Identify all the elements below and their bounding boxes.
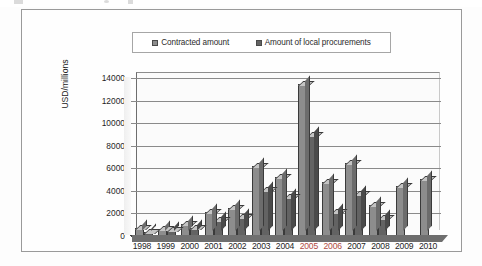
bar-group xyxy=(413,77,436,235)
chart-screenshot: Contracted amount Amount of local procur… xyxy=(0,0,482,266)
y-tick-label: 12000 xyxy=(102,96,125,106)
y-tick-label: 8000 xyxy=(106,141,125,151)
bar-groups xyxy=(132,77,436,235)
bar-group xyxy=(296,77,319,235)
scan-artifact xyxy=(0,0,482,7)
x-tick-label-2004: 2004 xyxy=(273,241,297,251)
bar-1998-series2 xyxy=(144,232,153,235)
bar-2000-series2 xyxy=(190,228,199,235)
y-tick-label: 6000 xyxy=(106,163,125,173)
bar-group xyxy=(389,77,412,235)
bar-2001-series1 xyxy=(205,212,214,235)
x-tick-label-1998: 1998 xyxy=(130,241,154,251)
bar-group xyxy=(155,77,178,235)
bar-group xyxy=(343,77,366,235)
x-tick-label-2003: 2003 xyxy=(249,241,273,251)
x-axis-tick-labels: 1998199920002001200220032004200520062007… xyxy=(130,241,440,251)
plot-wrapper: USD/millions 020004000600080001000012000… xyxy=(66,68,456,258)
chart-legend: Contracted amount Amount of local procur… xyxy=(132,32,391,53)
y-tick-label: 2000 xyxy=(106,208,125,218)
x-tick-label-2001: 2001 xyxy=(202,241,226,251)
x-tick-label-1999: 1999 xyxy=(154,241,178,251)
legend-item-label: Amount of local procurements xyxy=(265,38,371,47)
bar-group xyxy=(179,77,202,235)
legend-item-local-procurements: Amount of local procurements xyxy=(256,38,371,47)
bar-2003-series1 xyxy=(252,166,261,235)
bar-2005-series1 xyxy=(298,84,307,235)
plot-side-wall xyxy=(124,77,131,235)
bar-group xyxy=(202,77,225,235)
x-tick-label-2002: 2002 xyxy=(225,241,249,251)
x-tick-label-2006: 2006 xyxy=(321,241,345,251)
x-tick-label-2009: 2009 xyxy=(392,241,416,251)
bar-group xyxy=(226,77,249,235)
bar-2010-series1 xyxy=(420,179,429,235)
square-swatch-icon xyxy=(256,40,262,46)
bar-group xyxy=(249,77,272,235)
legend-item-label: Contracted amount xyxy=(161,38,229,47)
bar-1998-series1 xyxy=(135,228,144,235)
bar-2006-series1 xyxy=(322,182,331,235)
y-tick-label: 10000 xyxy=(102,118,125,128)
bar-group xyxy=(272,77,295,235)
bar-2000-series1 xyxy=(181,224,190,235)
x-tick-label-2010: 2010 xyxy=(416,241,440,251)
bar-2007-series1 xyxy=(345,163,354,235)
legend-item-contracted-amount: Contracted amount xyxy=(152,38,229,47)
y-axis-tick-labels: 02000400060008000100001200014000 xyxy=(84,68,128,226)
bar-group xyxy=(366,77,389,235)
bar-2002-series1 xyxy=(228,208,237,235)
bar-group xyxy=(132,77,155,235)
figure-frame: Contracted amount Amount of local procur… xyxy=(21,9,462,252)
bar-2008-series1 xyxy=(369,205,378,235)
bar-group xyxy=(319,77,342,235)
bar-2009-series1 xyxy=(396,186,405,235)
x-tick-label-2008: 2008 xyxy=(368,241,392,251)
y-tick-label: 4000 xyxy=(106,186,125,196)
plot-area xyxy=(130,78,434,236)
x-tick-label-2005: 2005 xyxy=(297,241,321,251)
y-axis-title: USD/millions xyxy=(60,44,70,124)
y-tick-label: 14000 xyxy=(102,73,125,83)
x-tick-label-2007: 2007 xyxy=(345,241,369,251)
x-tick-label-2000: 2000 xyxy=(178,241,202,251)
square-swatch-icon xyxy=(152,40,158,46)
